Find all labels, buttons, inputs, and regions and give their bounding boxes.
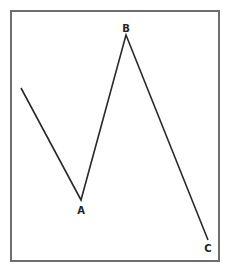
label-a: A (77, 205, 85, 216)
label-c: C (204, 243, 211, 254)
wave-diagram: A B C (0, 0, 230, 270)
wave-line (21, 35, 208, 240)
label-b: B (122, 23, 130, 34)
